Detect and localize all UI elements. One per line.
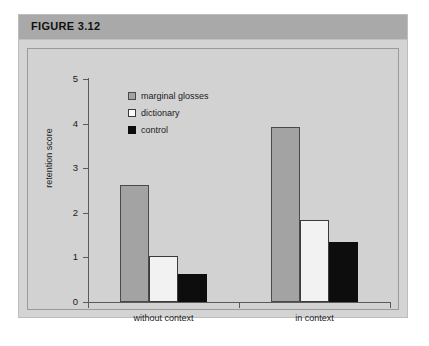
y-axis-title: retention score [44,108,54,208]
x-axis-tick [88,302,89,308]
y-axis-tick-label: 5 [62,74,78,84]
bar-control-in-context [329,242,358,302]
figure-container: FIGURE 3.12 retention score 012345 witho… [18,14,408,318]
legend-swatch-icon [128,92,136,100]
y-axis-line [88,78,89,303]
y-axis-tick-label: 1 [62,252,78,262]
legend-item-label: dictionary [141,108,180,118]
legend-swatch-icon [128,126,136,134]
legend-item-label: marginal glosses [141,91,209,101]
y-axis-tick [83,257,89,258]
x-axis-tick [239,302,240,308]
legend-swatch-icon [128,109,136,117]
figure-title-bar: FIGURE 3.12 [19,15,407,40]
bar-control-without-context [178,274,207,302]
chart-legend: marginal glossesdictionarycontrol [128,87,209,138]
y-axis-tick-label: 2 [62,208,78,218]
x-axis-category-label: in context [250,313,380,323]
legend-item: marginal glosses [128,87,209,104]
x-axis-category-label: without context [99,313,229,323]
figure-title: FIGURE 3.12 [31,20,100,32]
bar-dictionary-in-context [300,220,329,302]
y-axis-tick [83,168,89,169]
legend-item: control [128,121,209,138]
y-axis-tick-label: 0 [62,297,78,307]
y-axis-tick-label: 3 [62,163,78,173]
x-axis-tick [390,302,391,308]
y-axis-tick [83,213,89,214]
y-axis-tick-label: 4 [62,119,78,129]
bar-marginal-glosses-without-context [120,185,149,302]
y-axis-tick [83,79,89,80]
legend-item-label: control [141,125,168,135]
chart-plot-area: retention score 012345 without contextin… [27,48,399,310]
bar-marginal-glosses-in-context [271,127,300,302]
bar-dictionary-without-context [149,256,178,302]
y-axis-tick [83,124,89,125]
legend-item: dictionary [128,104,209,121]
